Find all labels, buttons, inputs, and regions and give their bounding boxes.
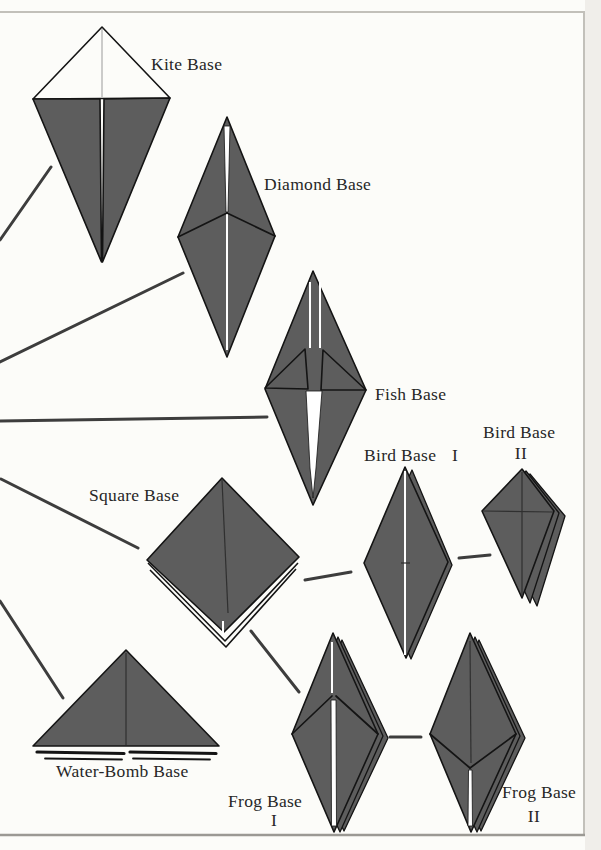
- frog-base-ii-numeral: II: [528, 806, 540, 826]
- frog-base-ii-label: Frog Base: [502, 782, 576, 802]
- frog-ii-center-sliver: [468, 770, 473, 826]
- connector-trunk-to-diamond-base: [0, 273, 183, 362]
- connector-trunk-to-fish-base: [0, 417, 267, 421]
- kite-right-panel: [103, 98, 171, 262]
- connector-trunk-to-water-bomb-base: [0, 601, 63, 698]
- connector-square-to-bird-base-i: [305, 572, 351, 580]
- bird-base-i-figure: [364, 467, 452, 659]
- fish-base-label: Fish Base: [375, 384, 446, 404]
- diamond-base-label: Diamond Base: [264, 174, 371, 194]
- bird-base-ii-figure: [482, 469, 565, 606]
- frog-base-ii-figure: [430, 633, 525, 832]
- bird-base-ii-label: Bird Base: [483, 422, 555, 442]
- frog-base-i-numeral: I: [271, 810, 277, 830]
- water-bomb-flap-right: [130, 752, 216, 754]
- book-page: Kite Base Diamond Base Fish Base Bird Ba…: [0, 0, 601, 850]
- bird-base-i-numeral: I: [452, 445, 458, 465]
- water-bomb-underflap-right: [133, 759, 210, 760]
- frog-i-center-sliver: [331, 700, 337, 826]
- square-base-label: Square Base: [89, 485, 179, 505]
- fish-base-figure: [265, 271, 366, 505]
- connector-bird-i-to-bird-ii: [459, 555, 490, 558]
- water-bomb-underflap-left: [45, 759, 122, 760]
- diamond-base-figure: [178, 117, 275, 357]
- bird-base-i-label: Bird Base: [364, 445, 436, 465]
- diagram-canvas: Kite Base Diamond Base Fish Base Bird Ba…: [0, 0, 601, 850]
- bird-base-ii-numeral: II: [515, 443, 527, 463]
- frog-base-i-label: Frog Base: [228, 791, 302, 811]
- connector-square-to-frog-base-i: [251, 631, 299, 692]
- water-bomb-base-figure: [33, 650, 219, 760]
- page-edge-strip: [585, 0, 601, 850]
- frog-ii-front-layer: [430, 633, 516, 832]
- kite-base-label: Kite Base: [151, 54, 222, 74]
- water-bomb-flap-left: [37, 752, 124, 754]
- frog-base-i-figure: [292, 633, 388, 832]
- kite-base-figure: [33, 27, 170, 262]
- water-bomb-base-label: Water-Bomb Base: [56, 761, 189, 781]
- connector-trunk-to-kite-base: [0, 167, 51, 240]
